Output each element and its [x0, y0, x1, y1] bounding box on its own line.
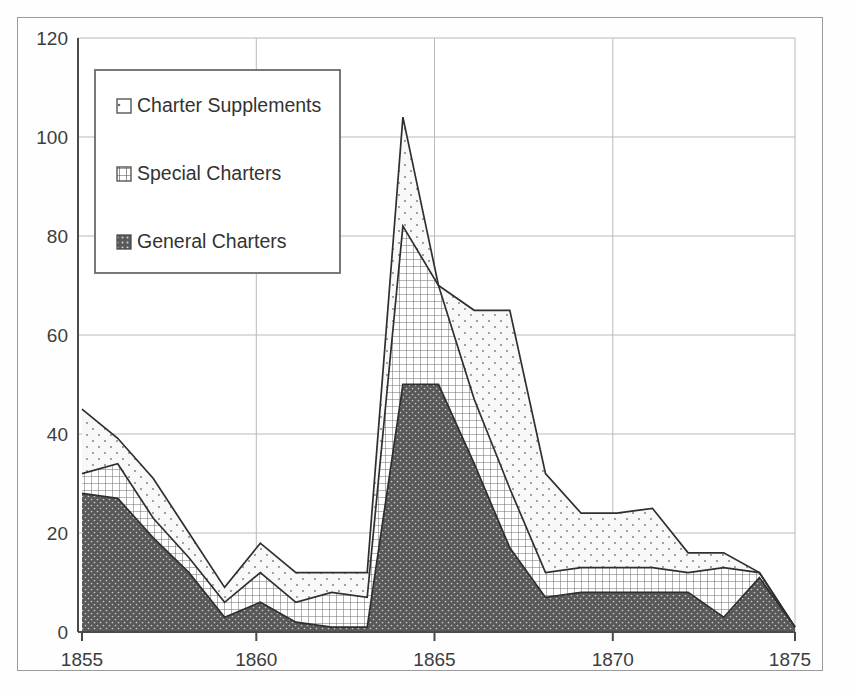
y-tick-80: 80 [47, 226, 68, 247]
legend-label-general-charters: General Charters [137, 230, 287, 252]
legend-label-special-charters: Special Charters [137, 162, 281, 184]
x-tick-marks [82, 632, 795, 641]
x-tick-1870: 1870 [592, 649, 634, 670]
legend-item-special-charters[interactable]: Special Charters [117, 162, 281, 184]
legend-item-charter-supplements[interactable]: Charter Supplements [117, 94, 322, 116]
y-tick-100: 100 [36, 127, 68, 148]
y-tick-120: 120 [36, 28, 68, 49]
chart-legend: Charter Supplements Special Charters Gen… [95, 70, 340, 273]
y-tick-60: 60 [47, 325, 68, 346]
chart-root: 120 100 80 60 40 20 0 1855 1860 1865 187… [0, 0, 853, 697]
legend-swatch-charter-supplements [117, 99, 131, 113]
y-axis-tick-labels: 120 100 80 60 40 20 0 [36, 28, 68, 643]
x-tick-1865: 1865 [413, 649, 455, 670]
y-tick-0: 0 [57, 622, 68, 643]
y-tick-20: 20 [47, 523, 68, 544]
legend-item-general-charters[interactable]: General Charters [117, 230, 287, 252]
y-tick-40: 40 [47, 424, 68, 445]
x-axis-tick-labels: 1855 1860 1865 1870 1875 [61, 649, 811, 670]
legend-swatch-general-charters [117, 235, 131, 249]
legend-label-charter-supplements: Charter Supplements [137, 94, 322, 116]
legend-swatch-special-charters [117, 167, 131, 181]
stacked-area-chart: 120 100 80 60 40 20 0 1855 1860 1865 187… [0, 0, 853, 697]
x-tick-1875: 1875 [769, 649, 811, 670]
x-tick-1860: 1860 [235, 649, 277, 670]
x-tick-1855: 1855 [61, 649, 103, 670]
